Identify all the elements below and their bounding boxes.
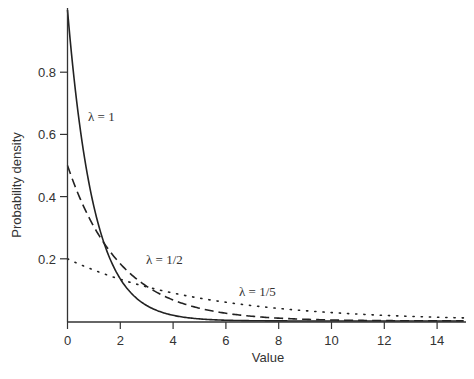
annotation-lambda-half: λ = 1/2 xyxy=(146,252,183,267)
x-tick-label: 6 xyxy=(222,333,229,348)
exponential-density-chart: 02468101214 0.20.40.60.8 Value Probabili… xyxy=(0,0,474,379)
x-tick-label: 0 xyxy=(64,333,71,348)
x-tick-label: 12 xyxy=(377,333,391,348)
curves-layer xyxy=(68,10,464,321)
x-axis-ticks: 02468101214 xyxy=(64,322,444,348)
x-tick-label: 2 xyxy=(117,333,124,348)
x-tick-label: 8 xyxy=(275,333,282,348)
x-tick-label: 14 xyxy=(430,333,444,348)
annotation-lambda-1: λ = 1 xyxy=(88,109,115,124)
x-axis-title: Value xyxy=(252,350,284,365)
x-tick-label: 10 xyxy=(324,333,338,348)
y-tick-label: 0.6 xyxy=(38,127,56,142)
y-axis-title: Probability density xyxy=(9,132,24,238)
y-tick-label: 0.2 xyxy=(38,252,56,267)
annotation-lambda-fifth: λ = 1/5 xyxy=(239,284,276,299)
x-tick-label: 4 xyxy=(169,333,176,348)
y-tick-label: 0.4 xyxy=(38,190,56,205)
curve-lambda-1 xyxy=(68,10,464,321)
y-axis-ticks: 0.20.40.60.8 xyxy=(38,65,68,267)
y-tick-label: 0.8 xyxy=(38,65,56,80)
